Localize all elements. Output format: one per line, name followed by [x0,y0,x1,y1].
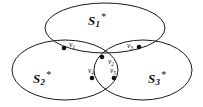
vertex-label-subscript: 3 [130,45,133,51]
vertex-dot-v4 [90,76,95,81]
set-label-s1: S1* [88,12,106,29]
set-label-s2: S2* [33,70,51,87]
vertex-label-v4: v4 [88,67,94,76]
venn-diagram-figure: S1*S2*S3* v1v2v3v4v5 [0,0,203,107]
vertex-label-v1: v1 [69,41,75,50]
set-label-star-superscript: * [46,69,51,80]
set-ellipse-s3 [94,40,192,100]
set-label-s3: S3* [148,70,166,87]
set-label-star-superscript: * [101,11,106,22]
set-label-star-superscript: * [161,69,166,80]
set-label-subscript: 2 [40,77,45,87]
vertex-label-subscript: 5 [113,70,116,76]
vertex-dot-v1 [62,46,67,51]
vertex-label-v3: v3 [127,42,133,51]
vertex-label-subscript: 4 [91,70,94,76]
set-label-subscript: 1 [95,19,100,29]
vertex-label-v5: v5 [110,67,116,76]
vertex-dot-v2 [100,55,105,60]
set-label-subscript: 3 [155,77,160,87]
vertex-dot-v3 [137,45,142,50]
vertex-dot-v5 [112,76,117,81]
vertex-label-subscript: 1 [72,44,75,50]
